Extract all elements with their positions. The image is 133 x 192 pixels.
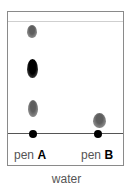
pen-a-prefix: pen (14, 148, 34, 162)
pen-b-letter: B (104, 148, 113, 162)
baseline (8, 133, 123, 134)
pen-a-spot-1 (27, 25, 37, 38)
chromatography-paper (7, 11, 124, 166)
pen-b-spot-1 (93, 113, 106, 128)
pen-a-spot-3 (28, 100, 38, 117)
pen-b-label: pen B (81, 148, 113, 162)
solvent-label: water (0, 172, 133, 186)
pen-a-origin-dot (29, 130, 37, 138)
pen-b-prefix: pen (81, 148, 101, 162)
pen-a-label: pen A (14, 148, 46, 162)
pen-a-spot-2 (27, 59, 38, 78)
pen-a-letter: A (37, 148, 46, 162)
pen-b-origin-dot (94, 130, 102, 138)
solvent-front-line (8, 21, 123, 22)
